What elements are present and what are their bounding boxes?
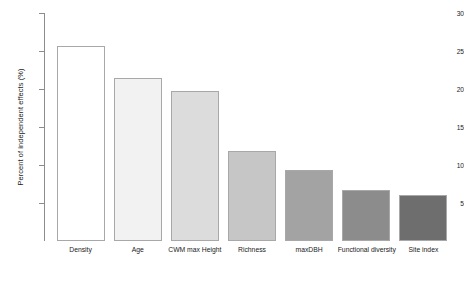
x-axis-label-cwm-max-height: CWM max Height (166, 245, 223, 254)
x-axis-label-maxdbh: maxDBH (281, 245, 338, 254)
x-axis-label-age: Age (109, 245, 166, 254)
bar-age[interactable] (114, 78, 162, 241)
x-axis-label-functional-diversity: Functional diversity (338, 245, 395, 254)
bar-maxdbh[interactable] (285, 170, 333, 241)
x-axis-label-site-index: Site index (395, 245, 452, 254)
x-axis-label-density: Density (52, 245, 109, 254)
bar-cwm-max-height[interactable] (171, 91, 219, 241)
bar-functional-diversity[interactable] (342, 190, 390, 241)
bar-density[interactable] (57, 46, 105, 241)
bar-richness[interactable] (228, 151, 276, 241)
bar-chart-figure: Percent of independent effects (%) 30252… (0, 0, 464, 287)
bars-group: DensityAgeCWM max HeightRichnessmaxDBHFu… (0, 0, 464, 241)
x-axis-label-richness: Richness (223, 245, 280, 254)
bar-site-index[interactable] (399, 195, 447, 241)
